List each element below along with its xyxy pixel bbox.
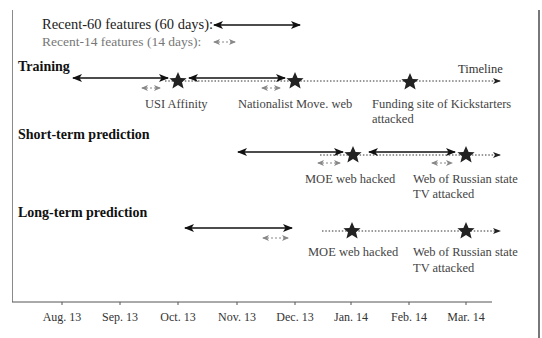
- long-term-row: [185, 222, 500, 239]
- event-star-icon: [344, 146, 361, 163]
- event-star-icon: [343, 222, 360, 239]
- event-star-icon: [169, 72, 186, 89]
- event-star-icon: [457, 222, 474, 239]
- event-star-icon: [457, 146, 474, 163]
- event-star-icon: [286, 72, 303, 89]
- time-axis: [12, 302, 492, 305]
- timeline-graphics: [0, 0, 542, 338]
- short-term-row: [238, 146, 500, 163]
- training-row: [73, 72, 500, 90]
- event-star-icon: [401, 73, 418, 90]
